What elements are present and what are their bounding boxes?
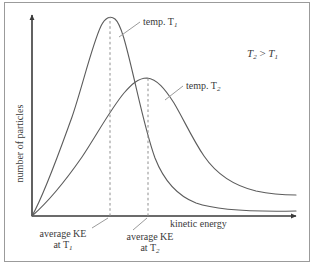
series-label-temp-t2: temp. T2 bbox=[186, 80, 220, 93]
x-axis-label: kinetic energy bbox=[170, 218, 227, 229]
y-axis-label: number of particles bbox=[14, 101, 25, 187]
leader-line-avg-ke-t1 bbox=[92, 218, 108, 228]
curve-temp-t2 bbox=[32, 78, 296, 216]
leader-line-temp-t1 bbox=[119, 22, 140, 37]
annotation-avg-ke-t1: average KE at T1 bbox=[30, 228, 96, 252]
leader-line-avg-ke-t2 bbox=[133, 218, 147, 230]
maxwell-boltzmann-figure: temp. T1 temp. T2 T2 > T1 kinetic energy… bbox=[0, 0, 317, 271]
annotation-avg-ke-t2: average KE at T2 bbox=[117, 231, 183, 255]
series-label-temp-t1: temp. T1 bbox=[143, 16, 177, 29]
temperature-comparison-note: T2 > T1 bbox=[247, 48, 278, 61]
